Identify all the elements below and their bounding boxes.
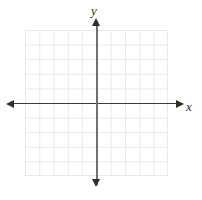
- coordinate-plane-figure: y x: [0, 0, 202, 200]
- y-axis-label: y: [91, 4, 97, 17]
- x-axis-label: x: [186, 100, 192, 113]
- x-axis-arrow-left-icon: [6, 100, 14, 108]
- y-axis-line: [96, 21, 98, 185]
- y-axis-arrow-down-icon: [92, 179, 100, 187]
- x-axis-arrow-right-icon: [176, 100, 184, 108]
- y-axis-arrow-up-icon: [92, 18, 100, 26]
